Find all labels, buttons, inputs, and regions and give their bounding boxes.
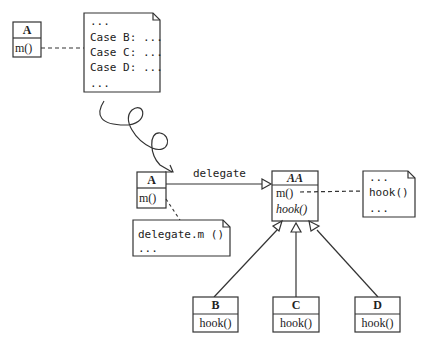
delegate-label: delegate bbox=[193, 167, 246, 180]
diagram-canvas: A m() ... Case B: ... Case C: ... Case D… bbox=[0, 0, 426, 346]
class-b-method: hook() bbox=[200, 316, 232, 330]
top-note-line: Case D: ... bbox=[90, 61, 163, 74]
class-b-name: B bbox=[211, 298, 219, 312]
top-class-a-method: m() bbox=[15, 41, 32, 55]
hook-note-line: hook() bbox=[369, 186, 409, 199]
top-note-line: Case C: ... bbox=[90, 46, 163, 59]
class-a-name: A bbox=[147, 173, 156, 187]
abstract-class-aa-method: m() bbox=[276, 186, 293, 200]
class-a-method: m() bbox=[139, 191, 156, 205]
class-d-name: D bbox=[373, 298, 382, 312]
top-class-a-name: A bbox=[23, 23, 32, 37]
top-note-line: ... bbox=[90, 15, 110, 28]
abstract-class-aa-name: AA bbox=[286, 171, 303, 185]
hook-note-line: ... bbox=[369, 202, 389, 215]
class-c-method: hook() bbox=[280, 316, 312, 330]
delegate-note-line: delegate.m () bbox=[138, 228, 224, 241]
transformation-arrow bbox=[100, 101, 172, 172]
abstract-class-aa-hook: hook() bbox=[276, 202, 307, 216]
class-c-name: C bbox=[292, 298, 301, 312]
class-d-method: hook() bbox=[362, 316, 394, 330]
hook-note-line: ... bbox=[369, 171, 389, 184]
delegate-note-line: ... bbox=[138, 242, 158, 255]
top-note-line: Case B: ... bbox=[90, 31, 163, 44]
inherit-d bbox=[317, 230, 378, 297]
top-note-line: ... bbox=[90, 77, 110, 90]
